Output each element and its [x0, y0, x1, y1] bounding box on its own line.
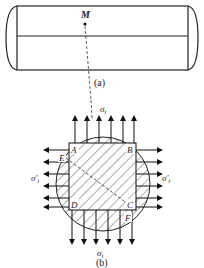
caption-a: (a) [94, 77, 105, 89]
label-f: F [124, 213, 131, 223]
label-b: B [127, 145, 133, 155]
cylinder [6, 6, 198, 70]
label-e: E [58, 153, 65, 163]
sigma-left: σ′t [31, 173, 39, 184]
label-a: A [70, 145, 77, 155]
label-c: C [127, 200, 134, 210]
pressure-vessel-diagram: M (a) [0, 0, 204, 268]
sigma-top: σt [100, 104, 106, 115]
caption-b: (b) [96, 257, 108, 268]
label-d: D [70, 200, 78, 210]
label-m: M [80, 9, 91, 20]
sigma-right: σ′t [162, 173, 170, 184]
point-m [83, 22, 86, 25]
dashed-leader [85, 26, 92, 118]
